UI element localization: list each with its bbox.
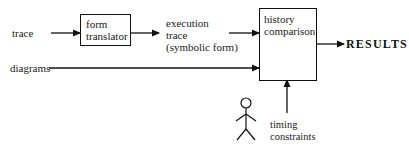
history-comparison-label-line2: comparison: [264, 25, 315, 37]
history-comparison-label-line1: history: [264, 13, 295, 25]
exec-trace-label-line2: trace: [166, 29, 187, 41]
flow-diagram: trace form translator execution trace (s…: [0, 0, 409, 148]
form-translator-label-line2: translator: [86, 30, 128, 42]
exec-trace-label-line3: (symbolic form): [166, 41, 238, 53]
results-output-label: RESULTS: [346, 37, 408, 52]
timing-constraints-label-line2: constraints: [270, 131, 316, 143]
form-translator-label-line1: form: [86, 18, 107, 30]
stick-figure-icon: [236, 98, 256, 140]
timing-constraints-label-line1: timing: [270, 119, 297, 131]
diagrams-input-label: diagrams: [10, 62, 50, 74]
trace-input-label: trace: [12, 27, 33, 39]
exec-trace-label-line1: execution: [166, 17, 209, 29]
